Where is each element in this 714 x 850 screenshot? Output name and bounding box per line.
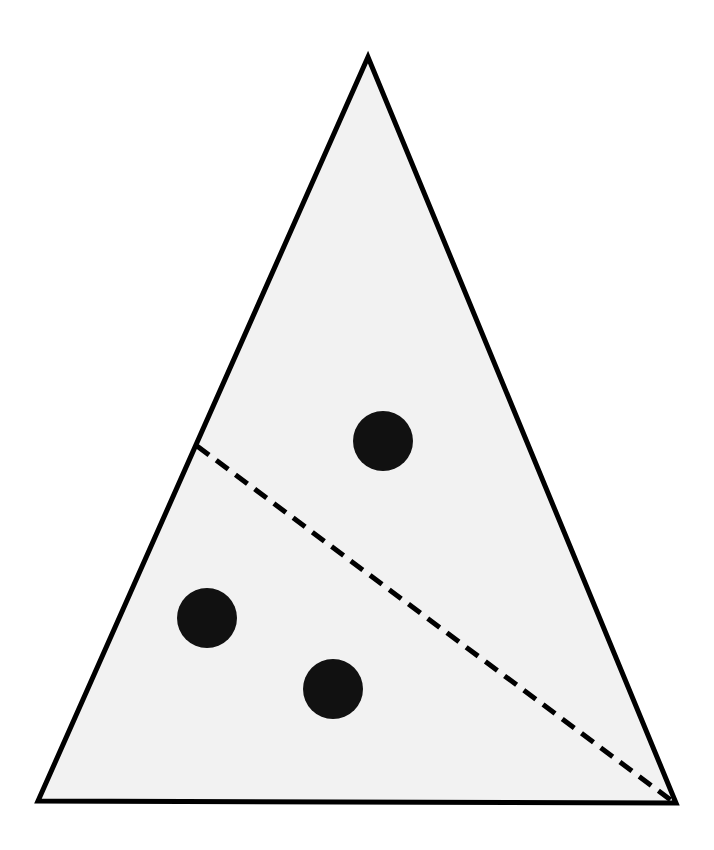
point-2 — [177, 588, 237, 648]
point-3 — [303, 659, 363, 719]
point-1 — [353, 411, 413, 471]
diagram-canvas — [0, 0, 714, 850]
